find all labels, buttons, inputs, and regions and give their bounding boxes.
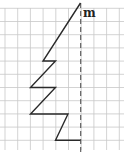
symmetry-grid-figure: m (0, 0, 124, 153)
grid-lines (0, 8, 124, 150)
axis-label-m: m (83, 6, 96, 20)
